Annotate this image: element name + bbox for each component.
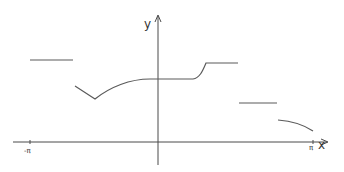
tick-label-pi: π (309, 145, 313, 152)
function-graph (0, 0, 344, 172)
piece-2 (75, 63, 238, 99)
y-axis-label: y (144, 18, 151, 30)
x-axis (13, 139, 328, 145)
piece-4 (278, 120, 313, 131)
x-axis-label: x (318, 139, 325, 151)
tick-label-neg-pi: -π (24, 148, 31, 155)
